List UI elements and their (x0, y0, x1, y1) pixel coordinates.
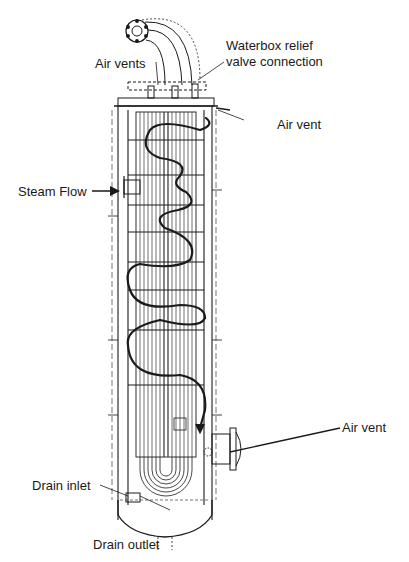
label-air-vent-upper: Air vent (277, 117, 321, 132)
lower-nozzle (204, 428, 241, 470)
steam-inlet-nozzle (124, 176, 140, 198)
label-steam-flow: Steam Flow (18, 184, 87, 199)
label-air-vents: Air vents (95, 56, 146, 71)
label-air-vent-lower: Air vent (342, 420, 386, 435)
label-waterbox-relief-2: valve connection (226, 54, 323, 69)
tube-bundle (128, 112, 204, 496)
label-drain-inlet: Drain inlet (32, 478, 91, 493)
label-waterbox-relief-1: Waterbox relief (226, 38, 313, 53)
label-drain-outlet: Drain outlet (93, 537, 159, 552)
drain-outlet-nozzle (158, 537, 172, 550)
inlet-flange (126, 19, 200, 85)
